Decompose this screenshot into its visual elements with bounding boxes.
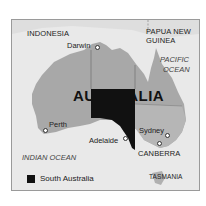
label-pacific-ocean-line2: OCEAN — [163, 66, 190, 74]
label-papua-new-guinea-line1: PAPUA NEW — [146, 28, 191, 36]
city-marker-canberra — [157, 141, 162, 146]
label-canberra: CANBERRA — [138, 150, 180, 158]
label-indian-ocean: INDIAN OCEAN — [22, 154, 76, 162]
label-papua-new-guinea-line2: GUINEA — [146, 37, 175, 45]
label-pacific-ocean-line1: PACIFIC — [160, 56, 189, 64]
label-sydney: Sydney — [139, 127, 164, 135]
city-marker-sydney — [165, 133, 170, 138]
label-adelaide: Adelaide — [89, 137, 118, 145]
map-legend: South Australia — [27, 174, 94, 183]
label-perth: Perth — [49, 121, 67, 129]
legend-label: South Australia — [40, 174, 94, 183]
city-marker-adelaide — [123, 136, 128, 141]
map-title: AUSTRALIA — [73, 88, 164, 103]
legend-swatch-south-australia — [27, 175, 35, 183]
city-marker-perth — [43, 128, 48, 133]
city-marker-darwin — [95, 45, 100, 50]
australia-map-shape — [12, 20, 199, 190]
label-tasmania: TASMANIA — [149, 174, 183, 181]
label-indonesia: INDONESIA — [27, 30, 69, 38]
map-frame: INDONESIA PAPUA NEW GUINEA PACIFIC OCEAN… — [11, 19, 200, 191]
label-darwin: Darwin — [67, 42, 90, 50]
